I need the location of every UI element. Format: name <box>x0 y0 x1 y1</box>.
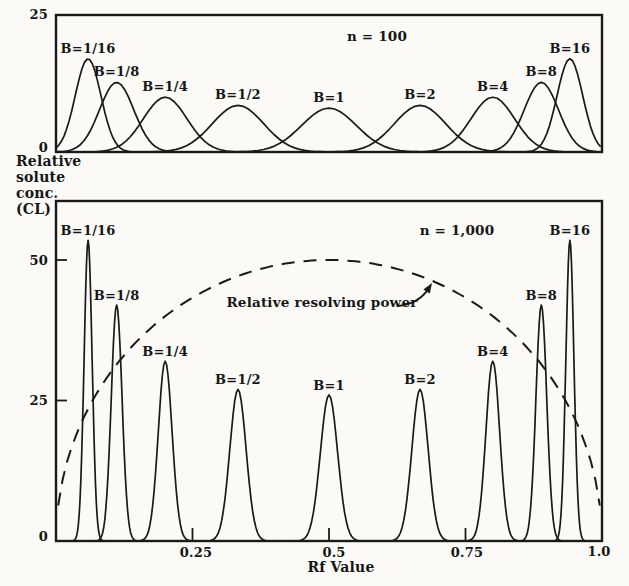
bottom-panel-ytick-25-label: 25 <box>18 393 48 408</box>
top-panel-ymax-tick-label: 25 <box>18 7 48 22</box>
y-axis-title-line: Relative <box>16 153 81 169</box>
concentration-peak-curve <box>286 395 372 541</box>
y-axis-title-line: conc. <box>16 185 81 201</box>
peak-label: B=1/16 <box>61 41 116 56</box>
concentration-peak-curve <box>379 389 460 541</box>
panel-frame <box>56 15 602 152</box>
concentration-peak-curve <box>68 240 108 541</box>
panel-frame <box>56 201 602 541</box>
bottom-panel-n-label: n = 1,000 <box>420 223 495 238</box>
peak-label: B=1/8 <box>94 64 140 79</box>
peak-label: B=2 <box>404 372 436 387</box>
bottom-panel-ytick-0-label: 0 <box>26 529 48 544</box>
bottom-panel-ytick-50-label: 50 <box>18 253 48 268</box>
xtick-label-05: 0.5 <box>322 545 345 560</box>
peak-label: B=1/8 <box>94 288 140 303</box>
annotation-arrowhead <box>423 283 432 294</box>
y-axis-title: Relative solute conc. (CL) <box>16 153 81 217</box>
xtick-label-025: 0.25 <box>180 545 212 560</box>
concentration-peak-curve <box>90 305 144 541</box>
peak-label: B=16 <box>550 41 591 56</box>
concentration-peak-curve <box>193 108 466 152</box>
peak-label: B=1 <box>313 90 345 105</box>
peak-label: B=2 <box>404 87 436 102</box>
concentration-peak-curve <box>514 305 568 541</box>
peak-label: B=8 <box>526 288 558 303</box>
top-panel-n-label: n = 100 <box>347 29 407 44</box>
top-panel-ymin-tick-label: 0 <box>26 140 48 155</box>
x-axis-title: Rf Value <box>307 560 374 575</box>
peak-label: B=1/2 <box>215 87 261 102</box>
peak-label: B=1/16 <box>61 223 116 238</box>
figure-root: Relative solute conc. (CL) 25 0 n = 100 … <box>0 0 629 586</box>
peak-label: B=1 <box>313 378 345 393</box>
concentration-peak-curve <box>197 389 278 541</box>
peak-label: B=16 <box>550 223 591 238</box>
peak-label: B=1/2 <box>215 372 261 387</box>
y-axis-title-line: solute <box>16 169 81 185</box>
concentration-peak-curve <box>550 240 590 541</box>
concentration-peak-curve <box>458 361 527 541</box>
peak-label: B=4 <box>477 344 509 359</box>
concentration-peak-curve <box>131 361 200 541</box>
peak-label: B=8 <box>526 64 558 79</box>
peak-label: B=4 <box>477 79 509 94</box>
xtick-label-10: 1.0 <box>587 544 610 559</box>
resolving-power-annotation: Relative resolving power <box>226 295 417 310</box>
peak-label: B=1/4 <box>142 79 188 94</box>
y-axis-title-line: (CL) <box>16 201 81 217</box>
xtick-label-075: 0.75 <box>451 545 483 560</box>
peak-label: B=1/4 <box>142 344 188 359</box>
